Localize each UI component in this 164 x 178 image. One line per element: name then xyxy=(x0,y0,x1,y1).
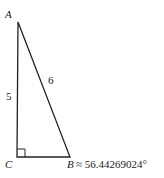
angle-b-value: ≈ 56.44269024° xyxy=(76,159,147,170)
right-angle-marker xyxy=(17,149,25,157)
vertex-b-label: B xyxy=(67,159,74,170)
triangle-abc xyxy=(17,22,70,157)
side-ac-length: 5 xyxy=(6,91,12,102)
triangle-figure xyxy=(0,0,164,178)
side-ab-length: 6 xyxy=(48,75,54,86)
vertex-c-label: C xyxy=(5,159,12,170)
vertex-a-label: A xyxy=(5,9,12,20)
